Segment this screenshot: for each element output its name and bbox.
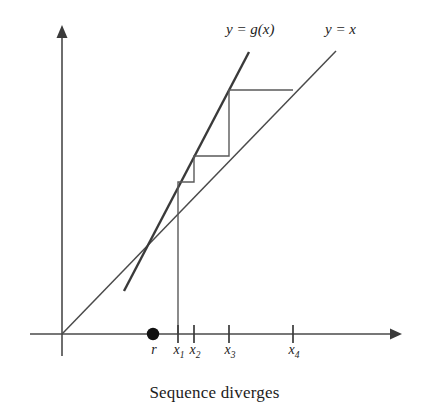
y-axis-arrowhead (57, 25, 68, 38)
identity-line-y-equals-x (62, 51, 336, 334)
root-point-marker (147, 328, 159, 340)
figure-caption: Sequence diverges (0, 383, 429, 403)
y-axis (57, 25, 68, 356)
tick-label-x3: x3 (221, 343, 239, 360)
tick-label-x2-subscript: 2 (196, 350, 201, 360)
tick-label-x2: x2 (186, 343, 204, 360)
tick-label-x1-subscript: 1 (180, 350, 185, 360)
tick-label-r: r (147, 343, 161, 357)
x-axis (30, 329, 402, 340)
label-y-equals-g-of-x: y = g(x) (226, 22, 274, 37)
cobweb-diagram (0, 0, 429, 420)
function-curve-g (124, 52, 249, 291)
tick-label-x3-subscript: 3 (231, 350, 236, 360)
figure-container: y = g(x) y = x r x1 x2 x3 x4 Sequence di… (0, 0, 429, 420)
x-axis-arrowhead (390, 329, 402, 340)
label-y-equals-x: y = x (325, 22, 356, 37)
tick-label-x4: x4 (285, 343, 303, 360)
tick-label-x4-subscript: 4 (295, 350, 300, 360)
cobweb-staircase-path (178, 90, 293, 334)
